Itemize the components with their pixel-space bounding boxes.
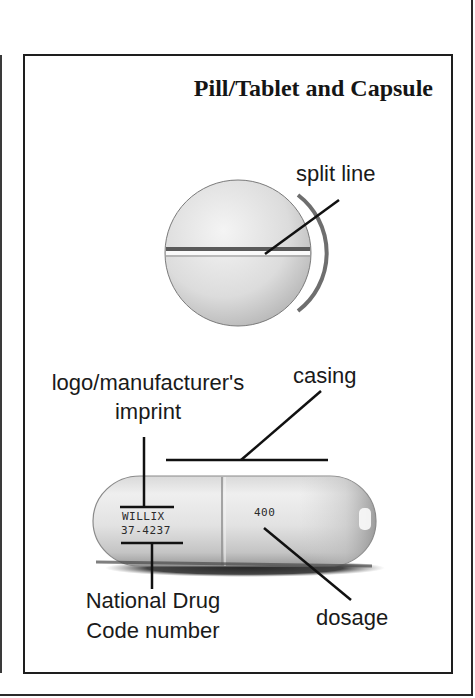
- tablet: [165, 180, 327, 326]
- label-ndc-line1: National Drug: [70, 587, 236, 615]
- label-dosage: dosage: [316, 604, 388, 632]
- capsule-imprint-logo: WILLIX: [122, 510, 165, 523]
- label-logo-line2: imprint: [30, 398, 266, 426]
- label-logo-imprint: logo/manufacturer's imprint: [30, 369, 266, 425]
- capsule-imprint-dosage: 400: [254, 506, 275, 519]
- label-ndc-line2: Code number: [70, 617, 236, 645]
- label-casing: casing: [293, 362, 357, 390]
- capsule-imprint-ndc: 37-4237: [121, 524, 171, 537]
- tablet-score-groove: [166, 247, 310, 251]
- label-ndc: National Drug Code number: [70, 587, 236, 644]
- label-logo-line1: logo/manufacturer's: [30, 369, 266, 397]
- label-split-line: split line: [296, 160, 375, 188]
